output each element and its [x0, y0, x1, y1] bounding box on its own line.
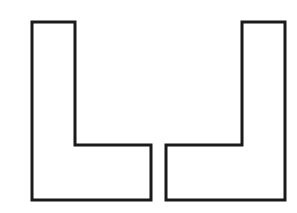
diagram-canvas [0, 0, 297, 213]
right-l-shape [166, 22, 285, 200]
left-l-shape [32, 22, 151, 200]
